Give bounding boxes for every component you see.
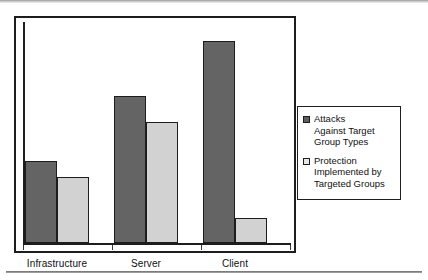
axis-tick-3 bbox=[290, 245, 291, 250]
chart-frame: Infrastructure Server Client bbox=[14, 16, 296, 253]
bar-server-protection bbox=[146, 122, 178, 243]
legend-entry-attacks: Attacks Against Target Group Types bbox=[303, 113, 396, 148]
bar-server-attacks bbox=[114, 96, 146, 243]
scan-bottom-rule bbox=[6, 271, 422, 273]
bar-client-attacks bbox=[203, 41, 235, 243]
plot-area: Infrastructure Server Client bbox=[16, 18, 294, 251]
axis-tick-2 bbox=[201, 245, 202, 250]
x-axis-label-infrastructure: Infrastructure bbox=[16, 258, 98, 269]
bar-infrastructure-protection bbox=[57, 177, 89, 243]
bar-infrastructure-attacks bbox=[25, 161, 57, 243]
x-axis-label-client: Client bbox=[194, 258, 276, 269]
legend-entry-protection: Protection Implemented by Targeted Group… bbox=[303, 155, 396, 190]
scan-top-edge bbox=[0, 0, 428, 3]
x-axis-label-server: Server bbox=[105, 258, 187, 269]
bar-client-protection bbox=[235, 218, 267, 243]
axis-tick-0 bbox=[23, 245, 24, 250]
legend-swatch-light-square-icon bbox=[303, 158, 310, 165]
legend-swatch-dark-square-icon bbox=[303, 116, 310, 123]
legend-label-attacks: Attacks Against Target Group Types bbox=[314, 113, 375, 148]
x-axis-line bbox=[23, 243, 291, 245]
axis-tick-1 bbox=[112, 245, 113, 250]
legend-label-protection: Protection Implemented by Targeted Group… bbox=[314, 155, 385, 190]
chart-legend: Attacks Against Target Group Types Prote… bbox=[297, 106, 401, 200]
